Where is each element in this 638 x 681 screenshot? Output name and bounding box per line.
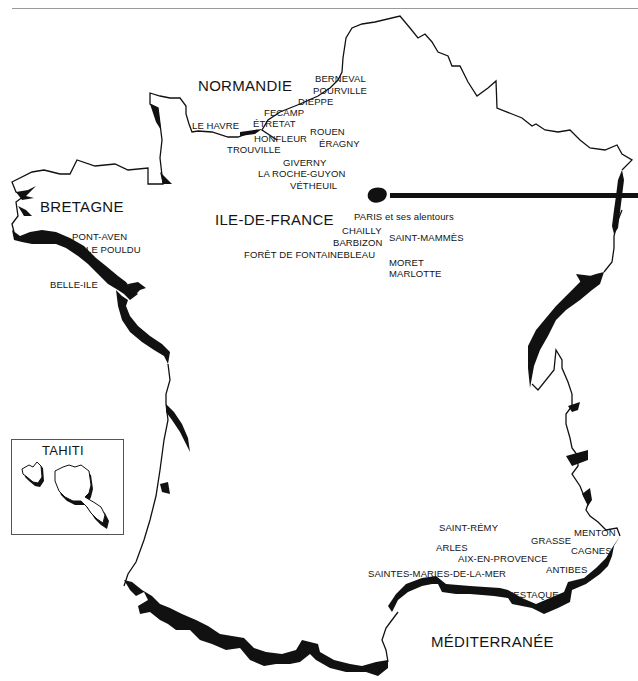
paris-blob xyxy=(368,187,387,202)
place-pont-aven: PONT-AVEN xyxy=(72,231,127,242)
place-foret-de-fontainebleau: FORÊT DE FONTAINEBLEAU xyxy=(244,249,375,260)
place-paris: PARIS et ses alentours xyxy=(354,211,454,222)
place-saintes-maries-de-la-mer: SAINTES-MARIES-DE-LA-MER xyxy=(368,568,506,579)
tahiti-islands xyxy=(11,439,124,535)
france-painting-map: NORMANDIE BRETAGNE ILE-DE-FRANCE MÉDITER… xyxy=(0,0,638,681)
place-aix-en-provence: AIX-EN-PROVENCE xyxy=(458,553,548,564)
place-saint-mammes: SAINT-MAMMÈS xyxy=(389,232,464,243)
place-chailly: CHAILLY xyxy=(342,225,382,236)
atlantic-coast-hook xyxy=(166,404,190,452)
bretagne-notch-2 xyxy=(18,206,32,216)
normandie-coast xyxy=(12,93,257,196)
place-berneval: BERNEVAL xyxy=(315,73,366,84)
place-le-pouldu: LE POULDU xyxy=(86,244,141,255)
place-le-havre: LE HAVRE xyxy=(192,120,239,131)
paris-label: PARIS xyxy=(354,211,382,222)
alps-notch-1 xyxy=(568,402,580,412)
place-antibes: ANTIBES xyxy=(546,564,587,575)
place-marlotte: MARLOTTE xyxy=(389,268,442,279)
bretagne-notch xyxy=(16,186,36,200)
place-menton: MENTON xyxy=(574,527,616,538)
place-eragny: ÉRAGNY xyxy=(319,138,360,149)
jura-thick xyxy=(528,272,604,388)
paris-suffix: et ses alentours xyxy=(385,211,454,222)
paris-pointer-line xyxy=(390,193,638,198)
moorea-island xyxy=(22,462,42,483)
region-bretagne: BRETAGNE xyxy=(40,198,124,215)
west-coast-thin xyxy=(12,196,24,232)
place-barbizon: BARBIZON xyxy=(333,237,382,248)
atlantic-notch xyxy=(160,482,170,494)
place-honfleur: HONFLEUR xyxy=(254,133,307,144)
atlantic-coast-thin xyxy=(124,364,170,586)
alps-notch-2 xyxy=(566,450,588,466)
tahiti-island xyxy=(55,465,105,523)
place-cagnes: CAGNES xyxy=(571,545,612,556)
pyrenees-coast xyxy=(124,580,388,676)
atlantic-coast-upper xyxy=(116,290,170,364)
cotentin-shading-2 xyxy=(160,172,172,184)
place-etretat: ÉTRETAT xyxy=(253,118,296,129)
place-giverny: GIVERNY xyxy=(283,157,326,168)
place-moret: MORET xyxy=(389,257,424,268)
place-grasse: GRASSE xyxy=(531,535,571,546)
region-mediterranee: MÉDITERRANÉE xyxy=(431,633,554,650)
place-la-roche-guyon: LA ROCHE-GUYON xyxy=(258,168,345,179)
place-trouville: TROUVILLE xyxy=(227,144,281,155)
place-arles: ARLES xyxy=(436,542,468,553)
alps-notch-3 xyxy=(582,488,592,506)
languedoc-coast-thin xyxy=(382,612,398,662)
place-dieppe: DIEPPE xyxy=(298,96,333,107)
place-fecamp: FECAMP xyxy=(264,107,304,118)
region-normandie: NORMANDIE xyxy=(198,77,292,94)
place-vetheuil: VÉTHEUIL xyxy=(290,180,337,191)
region-ile-de-france: ILE-DE-FRANCE xyxy=(215,211,334,228)
rhine-thick xyxy=(612,170,624,234)
place-pourville: POURVILLE xyxy=(313,85,367,96)
place-belle-ile: BELLE-ILE xyxy=(50,279,98,290)
place-saint-remy: SAINT-RÉMY xyxy=(439,522,498,533)
place-l-estaque: L'ESTAQUE xyxy=(506,589,559,600)
eastern-border-thin xyxy=(532,350,620,536)
place-rouen: ROUEN xyxy=(310,126,345,137)
